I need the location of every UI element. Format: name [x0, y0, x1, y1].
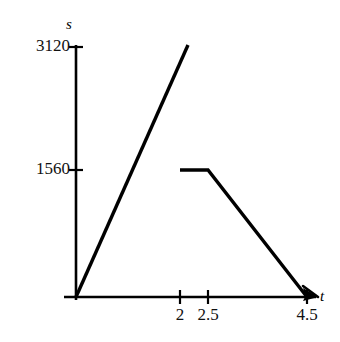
x-axis-label: t [320, 289, 324, 304]
y-tick-label-3120: 3120 [8, 37, 70, 54]
y-axis-label: s [66, 17, 72, 32]
x-tick-label-4-5: 4.5 [285, 306, 329, 323]
rising-segment-line [76, 45, 188, 297]
graph-figure: s t 3120 1560 2 2.5 4.5 [0, 0, 340, 342]
x-tick-label-2-5: 2.5 [186, 306, 230, 323]
plateau-descent-line [180, 170, 307, 297]
y-tick-label-1560: 1560 [8, 160, 70, 177]
